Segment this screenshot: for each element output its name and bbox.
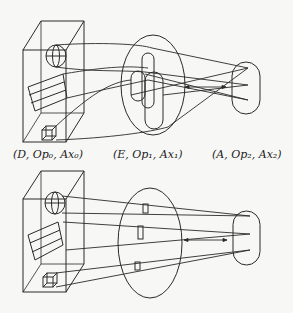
bottom-panel bbox=[23, 171, 260, 298]
sphere-icon-top bbox=[46, 45, 66, 67]
set-a-ellipse-bottom bbox=[233, 211, 260, 265]
projection-lines-bottom bbox=[56, 196, 250, 287]
slab-icon-bottom bbox=[28, 222, 63, 260]
data-box-bottom bbox=[23, 171, 84, 292]
sphere-icon-bottom bbox=[45, 192, 65, 214]
label-data-set: (D, Op₀, Ax₀) bbox=[13, 148, 83, 161]
top-panel bbox=[23, 21, 260, 142]
label-a-set: (A, Op₂, Ax₂) bbox=[212, 148, 282, 161]
slab-icon-top bbox=[28, 74, 67, 111]
data-box-top bbox=[23, 21, 84, 142]
label-e-set: (E, Op₁, Ax₁) bbox=[113, 148, 183, 161]
cube-icon-bottom bbox=[43, 273, 57, 287]
projection-lines-top bbox=[56, 44, 248, 140]
cube-icon-top bbox=[42, 126, 56, 140]
